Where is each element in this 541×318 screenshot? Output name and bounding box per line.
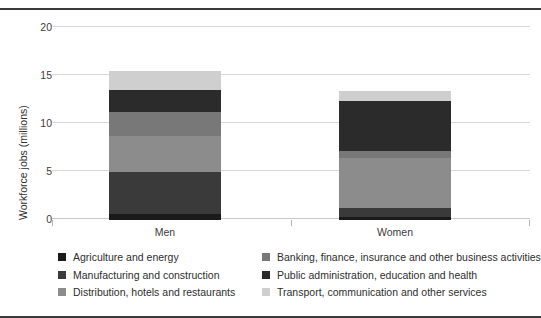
bar-segment xyxy=(109,71,221,90)
legend-label: Banking, finance, insurance and other bu… xyxy=(277,251,541,263)
bar-segment xyxy=(109,172,221,214)
y-tick-0: 0 xyxy=(26,213,52,225)
legend-label: Agriculture and energy xyxy=(73,251,179,263)
legend-swatch-icon xyxy=(58,288,66,296)
x-label-women: Women xyxy=(330,226,460,238)
bar-segment xyxy=(339,151,451,158)
gridline-20 xyxy=(52,26,530,27)
bar-segment xyxy=(339,217,451,220)
bar-segment xyxy=(109,136,221,172)
legend-swatch-icon xyxy=(262,288,270,296)
legend-item[interactable]: Transport, communication and other servi… xyxy=(262,284,532,301)
legend-item[interactable]: Manufacturing and construction xyxy=(58,267,273,284)
legend-item[interactable]: Public administration, education and hea… xyxy=(262,267,532,284)
x-tick-left xyxy=(52,220,53,226)
legend-swatch-icon xyxy=(58,253,66,261)
bar-segment xyxy=(339,91,451,100)
legend-column-left: Agriculture and energyManufacturing and … xyxy=(58,249,273,302)
x-label-men: Men xyxy=(100,226,230,238)
legend-label: Manufacturing and construction xyxy=(73,269,220,281)
legend-item[interactable]: Distribution, hotels and restaurants xyxy=(58,284,273,301)
bar-segment xyxy=(339,101,451,151)
legend-swatch-icon xyxy=(262,271,270,279)
y-tick-5: 5 xyxy=(26,165,52,177)
bar-segment xyxy=(109,90,221,112)
bar-women[interactable] xyxy=(339,91,451,220)
legend-swatch-icon xyxy=(58,271,66,279)
plot-area: Men Women xyxy=(52,18,530,220)
y-tick-10: 10 xyxy=(26,117,52,129)
bar-segment xyxy=(109,214,221,220)
legend-swatch-icon xyxy=(262,253,270,261)
bar-men[interactable] xyxy=(109,71,221,220)
bar-segment xyxy=(339,158,451,208)
legend-label: Public administration, education and hea… xyxy=(277,269,477,281)
y-tick-20: 20 xyxy=(26,21,52,33)
chart-legend: Agriculture and energyManufacturing and … xyxy=(52,249,522,305)
x-tick-middle xyxy=(291,220,292,226)
legend-label: Distribution, hotels and restaurants xyxy=(73,286,235,298)
bar-segment xyxy=(339,208,451,217)
figure-top-rule xyxy=(0,8,541,10)
chart-figure: Workforce jobs (millions) 20 15 10 5 0 M… xyxy=(0,0,541,318)
y-tick-15: 15 xyxy=(26,69,52,81)
legend-item[interactable]: Banking, finance, insurance and other bu… xyxy=(262,249,532,266)
x-tick-right xyxy=(529,220,530,226)
legend-column-right: Banking, finance, insurance and other bu… xyxy=(262,249,532,302)
legend-item[interactable]: Agriculture and energy xyxy=(58,249,273,266)
legend-label: Transport, communication and other servi… xyxy=(277,286,487,298)
bar-segment xyxy=(109,112,221,136)
